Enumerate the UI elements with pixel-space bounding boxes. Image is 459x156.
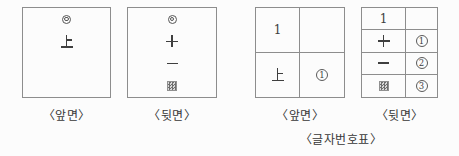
hanja-one-glyph xyxy=(378,62,389,63)
shaded-square-icon xyxy=(167,81,177,91)
back-table-header-left: 1 xyxy=(362,8,406,30)
double-circle-icon xyxy=(62,15,71,24)
back-card-square-slot xyxy=(128,75,216,97)
back-table-label: 〈뒷면〉 xyxy=(361,106,438,123)
hanja-ten-glyph xyxy=(378,35,390,47)
circled-number-1: 1 xyxy=(416,35,428,47)
letter-number-figure: 〈앞면〉 〈뒷면〉 1 1 〈앞면〉 1 1 xyxy=(0,0,459,156)
back-card-cross-slot xyxy=(128,30,216,52)
front-table-cell-top-right xyxy=(300,8,344,53)
circled-number-1: 1 xyxy=(316,69,328,81)
front-card-empty-slot xyxy=(23,75,110,97)
figure-caption: 〈글자번호표〉 xyxy=(250,130,432,147)
front-card-mark-slot xyxy=(23,8,110,30)
front-card-character-slot xyxy=(23,30,110,52)
front-table-cell-bottom-right: 1 xyxy=(300,53,344,98)
double-circle-icon xyxy=(168,15,177,24)
back-table-row2-number: 2 xyxy=(406,53,437,75)
back-card-dash-slot xyxy=(128,53,216,75)
double-circle-inner xyxy=(170,17,175,22)
back-card-mark-slot xyxy=(128,8,216,30)
back-table-header-right xyxy=(406,8,437,30)
back-card xyxy=(127,7,217,98)
back-table-row1-number: 1 xyxy=(406,30,437,52)
front-table-cell-bottom-left xyxy=(256,53,300,98)
back-number-table: 1 1 2 3 xyxy=(361,7,438,98)
front-card-empty-slot xyxy=(23,53,110,75)
front-table-cell-top-left: 1 xyxy=(256,8,300,53)
hanja-shang-glyph xyxy=(272,68,284,81)
front-table-label: 〈앞면〉 xyxy=(255,106,345,123)
hanja-ten-glyph xyxy=(166,35,178,47)
double-circle-inner xyxy=(64,17,69,22)
front-card-label: 〈앞면〉 xyxy=(22,106,111,123)
back-table-row2-symbol xyxy=(362,53,406,75)
front-number-table: 1 1 xyxy=(255,7,345,98)
circled-number-2: 2 xyxy=(416,57,428,69)
shaded-square-icon xyxy=(379,81,389,91)
back-table-row3-number: 3 xyxy=(406,75,437,97)
back-table-row1-symbol xyxy=(362,30,406,52)
front-card xyxy=(22,7,111,98)
circled-number-3: 3 xyxy=(416,80,428,92)
hanja-shang-glyph xyxy=(61,35,73,48)
back-table-row3-symbol xyxy=(362,75,406,97)
back-card-label: 〈뒷면〉 xyxy=(127,106,217,123)
hanja-one-glyph xyxy=(167,63,178,64)
